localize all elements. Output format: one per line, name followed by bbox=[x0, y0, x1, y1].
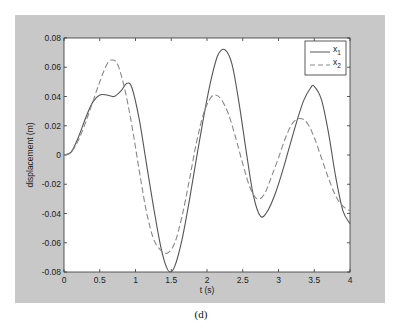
x-tick-label: 3.5 bbox=[308, 275, 320, 285]
figure-caption: (d) bbox=[195, 308, 208, 321]
x-tick-label: 0.5 bbox=[94, 275, 106, 285]
y-tick-label: -0.08 bbox=[42, 267, 62, 277]
legend-box bbox=[305, 41, 346, 75]
y-tick-label: 0.02 bbox=[44, 121, 61, 131]
x-tick-label: 2.5 bbox=[237, 275, 249, 285]
y-tick-label: 0.04 bbox=[44, 92, 61, 102]
legend: x1 x2 bbox=[305, 41, 346, 75]
x-tick-label: 3 bbox=[276, 275, 281, 285]
x-tick-label: 2 bbox=[205, 275, 210, 285]
x-tick-label: 1.5 bbox=[165, 275, 177, 285]
x-axis-label: t (s) bbox=[200, 285, 215, 295]
x-tick-labels: 00.511.522.533.54 bbox=[62, 275, 353, 285]
y-tick-label: 0.06 bbox=[44, 62, 61, 72]
displacement-chart: 00.511.522.533.54 -0.08-0.06-0.04-0.0200… bbox=[0, 0, 394, 335]
x-tick-label: 4 bbox=[348, 275, 353, 285]
y-tick-label: -0.06 bbox=[42, 238, 62, 248]
y-axis-label: displacement (m) bbox=[25, 122, 35, 187]
y-tick-label: -0.04 bbox=[42, 209, 62, 219]
y-tick-label: 0.08 bbox=[44, 33, 61, 43]
y-tick-label: -0.02 bbox=[42, 179, 62, 189]
x-tick-label: 0 bbox=[62, 275, 67, 285]
y-tick-labels: -0.08-0.06-0.04-0.0200.020.040.060.08 bbox=[42, 33, 62, 277]
y-tick-label: 0 bbox=[56, 150, 61, 160]
x-tick-label: 1 bbox=[133, 275, 138, 285]
